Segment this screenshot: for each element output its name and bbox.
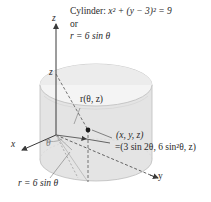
theta-label: θ: [46, 139, 51, 149]
cylinder-surface: [40, 64, 152, 181]
cylinder-equation: x² + (y − 3)² = 9: [108, 6, 171, 16]
point-marker: [86, 128, 91, 133]
vector-label: r(θ, z): [80, 95, 103, 105]
x-axis-label: x: [11, 140, 15, 150]
base-curve-label: r = 6 sin θ: [18, 179, 58, 189]
title-line2: or: [70, 20, 78, 30]
point-formula: =(3 sin 2θ, 6 sin²θ, z): [115, 143, 196, 153]
title-line3: r = 6 sin θ: [70, 32, 110, 42]
y-axis-label: y: [158, 172, 163, 182]
title-line1: Cylinder: x² + (y − 3)² = 9: [70, 7, 172, 17]
point-label: (x, y, z): [116, 131, 143, 141]
z-axis-label: z: [52, 14, 56, 24]
z-height-label: z: [49, 68, 53, 78]
